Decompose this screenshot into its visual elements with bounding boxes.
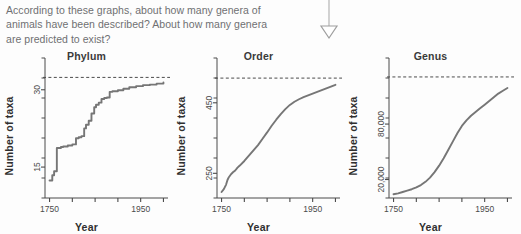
chart-order: Order Number of taxa 25045017501950 Year	[172, 48, 345, 234]
question-line-2: animals have been described? About how m…	[6, 17, 306, 31]
svg-text:1750: 1750	[384, 204, 403, 214]
plot-area: 20,00080,00017501950	[344, 48, 517, 234]
question-prompt: According to these graphs, about how man…	[6, 3, 306, 46]
svg-text:1750: 1750	[212, 204, 231, 214]
svg-text:1950: 1950	[303, 204, 322, 214]
down-arrow-icon	[316, 0, 342, 40]
x-axis-label: Year	[172, 221, 345, 233]
svg-text:1950: 1950	[475, 204, 494, 214]
chart-genus: Genus Number of taxa 20,00080,0001750195…	[344, 48, 517, 234]
svg-text:1950: 1950	[131, 204, 150, 214]
x-axis-label: Year	[344, 221, 517, 233]
svg-text:250: 250	[204, 166, 214, 180]
x-axis-label: Year	[0, 221, 173, 233]
svg-text:15: 15	[32, 162, 42, 172]
svg-text:1750: 1750	[40, 204, 59, 214]
svg-text:20,000: 20,000	[376, 166, 386, 192]
svg-text:80,000: 80,000	[376, 111, 386, 137]
charts-row: Phylum Number of taxa 153017501950 Year …	[0, 48, 521, 234]
plot-area: 153017501950	[0, 48, 173, 234]
svg-text:450: 450	[204, 95, 214, 109]
question-line-1: According to these graphs, about how man…	[6, 3, 306, 17]
question-line-3: are predicted to exist?	[6, 32, 306, 46]
plot-area: 25045017501950	[172, 48, 345, 234]
svg-text:30: 30	[32, 85, 42, 95]
chart-phylum: Phylum Number of taxa 153017501950 Year	[0, 48, 173, 234]
